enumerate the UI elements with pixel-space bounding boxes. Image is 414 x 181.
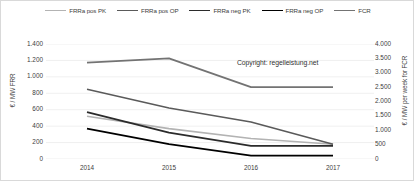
x-axis-tick-label: 2016 — [244, 165, 258, 171]
y-axis-right-tick-label: 0 — [375, 156, 379, 162]
y-axis-right-tick-label: 1.000 — [375, 127, 391, 133]
y-axis-left-tick-label: 800 — [32, 90, 43, 96]
y-axis-left-tick-label: 1.200 — [27, 57, 43, 63]
y-axis-left-tick-label: 0 — [39, 156, 43, 162]
y-axis-left-ticks: 02004006008001.0001.2001.400 — [15, 1, 43, 181]
y-axis-right-tick-label: 500 — [375, 141, 386, 147]
y-axis-right-ticks: 05001.0001.5002.0002.5003.0003.5004.000 — [375, 1, 405, 181]
y-axis-left-tick-label: 200 — [32, 139, 43, 145]
legend-item-fcr[interactable]: FCR — [334, 8, 370, 14]
y-axis-right-tick-label: 1.500 — [375, 112, 391, 118]
y-axis-left-tick-label: 600 — [32, 106, 43, 112]
y-axis-left-tick-label: 1.400 — [27, 41, 43, 47]
y-axis-right-tick-label: 4.000 — [375, 41, 391, 47]
legend-item-frra-neg-op[interactable]: FRRa neg OP — [262, 8, 324, 14]
x-axis-tick-label: 2015 — [162, 165, 176, 171]
legend-label-frra-neg-op: FRRa neg OP — [286, 8, 324, 14]
legend-item-frra-pos-op[interactable]: FRRa pos OP — [117, 8, 178, 14]
legend-swatch-frra-neg-op — [262, 10, 283, 11]
copyright-annotation: Copyright: regelleistung.net — [237, 59, 318, 66]
x-axis-tick-label: 2014 — [80, 165, 94, 171]
legend-item-frra-neg-pk[interactable]: FRRa neg PK — [189, 8, 250, 14]
legend-swatch-fcr — [334, 10, 355, 11]
plot-area — [46, 44, 374, 159]
y-axis-right-tick-label: 3.500 — [375, 55, 391, 61]
legend-label-frra-pos-op: FRRa pos OP — [141, 8, 178, 14]
legend-label-frra-neg-pk: FRRa neg PK — [213, 8, 250, 14]
x-axis-tick-label: 2017 — [326, 165, 340, 171]
x-axis-ticks: 2014201520162017 — [46, 161, 374, 175]
legend-label-frra-pos-pk: FRRa pos PK — [69, 8, 106, 14]
chart-legend: FRRa pos PK FRRa pos OP FRRa neg PK FRRa… — [1, 3, 414, 19]
y-axis-right-tick-label: 2.000 — [375, 98, 391, 104]
y-axis-right-tick-label: 2.500 — [375, 84, 391, 90]
series-line — [87, 112, 333, 146]
chart-container: FRRa pos PK FRRa pos OP FRRa neg PK FRRa… — [0, 0, 414, 181]
legend-swatch-frra-pos-pk — [45, 10, 66, 11]
y-axis-left-tick-label: 400 — [32, 123, 43, 129]
legend-swatch-frra-pos-op — [117, 10, 138, 11]
legend-label-fcr: FCR — [358, 8, 370, 14]
legend-item-frra-pos-pk[interactable]: FRRa pos PK — [45, 8, 106, 14]
y-axis-left-tick-label: 1.000 — [27, 73, 43, 79]
y-axis-right-tick-label: 3.000 — [375, 69, 391, 75]
legend-swatch-frra-neg-pk — [189, 10, 210, 11]
